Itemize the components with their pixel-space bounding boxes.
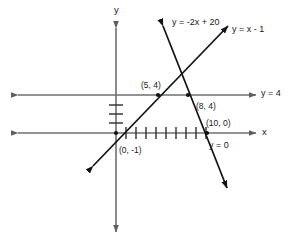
- y-axis: [109, 28, 123, 232]
- point-marker-origin-crossing: [114, 131, 118, 135]
- graph-canvas: [0, 0, 291, 250]
- point-label-0-neg-1: (0, -1): [119, 146, 142, 155]
- x-axis-label: x: [262, 127, 267, 137]
- point-label-5-4: (5, 4): [141, 81, 161, 90]
- coordinate-plane-figure: y x y = -2x + 20 y = x - 1 y = 4 y = 0 (…: [0, 0, 291, 250]
- point-label-10-0: (10, 0): [206, 119, 231, 128]
- point-label-8-4: (8, 4): [196, 102, 216, 111]
- line-y-equals-neg-2x-plus-20: [163, 26, 227, 188]
- x-axis: [18, 127, 256, 139]
- equation-label-y-equals-0: y = 0: [209, 141, 229, 150]
- x-minus-1-line: [93, 26, 228, 166]
- equation-label-y-equals-4: y = 4: [261, 89, 281, 98]
- equation-label-neg-2x-plus-20: y = -2x + 20: [172, 18, 220, 27]
- neg-2x-plus-20-line: [163, 26, 227, 188]
- line-y-equals-x-minus-1: [93, 26, 228, 166]
- equation-label-x-minus-1: y = x - 1: [232, 25, 264, 34]
- point-marker-5-4: [156, 93, 160, 97]
- point-marker-8-4: [186, 93, 190, 97]
- y-axis-label: y: [114, 5, 119, 15]
- point-marker-10-0: [205, 131, 209, 135]
